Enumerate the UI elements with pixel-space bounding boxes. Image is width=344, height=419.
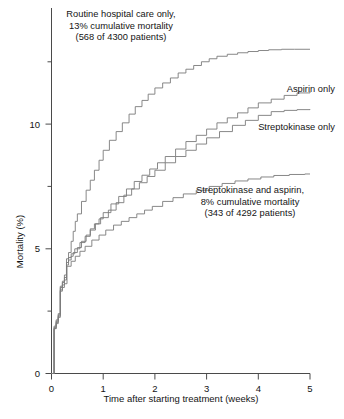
y-axis-title: Mortality (%) [14,197,25,287]
annotation-aspirin-line1: Aspirin only [180,84,335,96]
y-tick-label-0: 0 [35,368,40,379]
annotation-aspirin-only: Aspirin only [180,84,335,96]
annotation-routine-line1: Routine hospital care only, [36,9,206,21]
annotation-routine-line2: 13% cumulative mortality [36,21,206,33]
annotation-routine-line3: (568 of 4300 patients) [36,32,206,44]
annotation-streptokinase-line1: Streptokinase only [170,122,335,134]
y-tick-label-10: 10 [29,119,40,130]
annotation-combination-line3: (343 of 4292 patients) [160,208,340,220]
x-axis-title: Time after starting treatment (weeks) [52,393,310,404]
y-tick-label-5: 5 [35,243,40,254]
chart-figure: 0 5 10 0 1 2 3 4 5 Routine hospital care… [0,0,344,419]
annotation-combination-line2: 8% cumulative mortality [160,197,340,209]
annotation-streptokinase-only: Streptokinase only [170,122,335,134]
annotation-streptokinase-and-aspirin: Streptokinase and aspirin, 8% cumulative… [160,185,340,220]
annotation-combination-line1: Streptokinase and aspirin, [160,185,340,197]
annotation-routine-hospital-care: Routine hospital care only, 13% cumulati… [36,9,206,44]
